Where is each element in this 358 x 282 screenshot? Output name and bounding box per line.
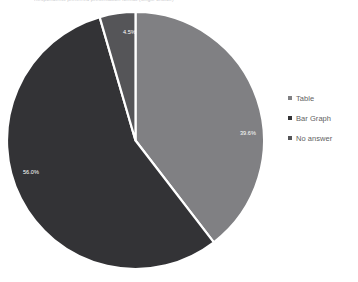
legend-label: Bar Graph [296,114,331,123]
legend-item-bar-graph[interactable]: Bar Graph [288,108,358,128]
pie-svg: 39.6%56.0%4.5% [6,11,265,270]
legend-item-no-answer[interactable]: No answer [288,128,358,148]
legend-label: No answer [296,134,332,143]
pie-chart-figure: Respondents preferred presentation forma… [0,0,358,282]
pie-plot-area: 39.6%56.0%4.5% [6,11,265,270]
legend-item-table[interactable]: Table [288,88,358,108]
legend-swatch-icon [288,136,292,140]
pie-slice-group [7,12,264,269]
pie-slice-label: 39.6% [240,130,256,136]
pie-slice-label: 56.0% [23,169,39,175]
legend-swatch-icon [288,96,292,100]
legend-label: Table [296,94,314,103]
pie-slice-label: 4.5% [123,29,136,35]
chart-legend: Table Bar Graph No answer [288,88,358,148]
chart-title: Respondents preferred presentation forma… [34,0,304,3]
legend-swatch-icon [288,116,292,120]
